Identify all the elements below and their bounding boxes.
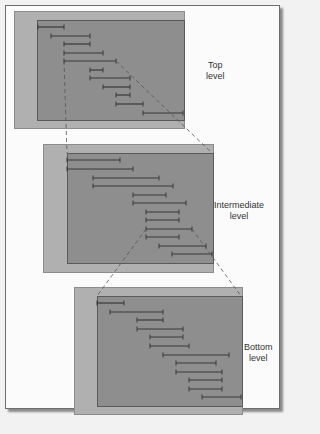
timeline-bar	[172, 252, 212, 257]
timeline-bar	[137, 327, 183, 332]
timeline-bar	[189, 378, 222, 383]
timeline-bar	[150, 335, 183, 340]
dashed-connector-line	[116, 61, 212, 153]
dashed-connector-line	[97, 229, 146, 296]
timeline-bar	[93, 184, 173, 189]
timeline-bar	[133, 193, 166, 198]
timeline-bar	[146, 227, 192, 232]
timeline-bar	[176, 370, 222, 375]
timeline-bar	[90, 76, 130, 81]
bottom-level-label: Bottomlevel	[244, 342, 273, 364]
timeline-bar	[64, 51, 103, 56]
label-line-2: level	[206, 71, 225, 82]
timeline-bar	[146, 210, 179, 215]
timeline-bar	[116, 102, 143, 107]
timeline-bar	[146, 218, 179, 223]
timeline-bar	[133, 201, 186, 206]
timeline-bar	[189, 387, 222, 392]
timeline-bar	[150, 344, 189, 349]
timeline-bar	[64, 42, 90, 47]
timeline-bar	[67, 158, 120, 163]
timeline-bar	[176, 361, 216, 366]
dashed-connector-line	[64, 61, 67, 153]
timeline-bar	[143, 111, 183, 116]
timeline-bar	[103, 85, 130, 90]
timeline-bar	[110, 310, 163, 315]
timeline-bar	[38, 25, 64, 30]
timeline-bar	[51, 34, 90, 39]
label-line-2: level	[214, 211, 264, 222]
label-line-1: Intermediate	[214, 200, 264, 211]
timeline-bar	[97, 301, 124, 306]
dashed-connector-line	[192, 229, 241, 296]
timeline-bar	[159, 244, 206, 249]
timeline-bar	[146, 235, 179, 240]
timeline-bar	[163, 353, 229, 358]
label-line-1: Bottom	[244, 342, 273, 353]
label-line-2: level	[244, 353, 273, 364]
label-line-1: Top	[206, 60, 225, 71]
timeline-bar	[116, 93, 130, 98]
timeline-bar	[90, 68, 103, 73]
timeline-bar	[93, 176, 159, 181]
top-level-label: Toplevel	[206, 60, 225, 82]
intermediate-level-label: Intermediatelevel	[214, 200, 264, 222]
timeline-bar	[137, 318, 163, 323]
timeline-bar	[64, 59, 116, 64]
timeline-bar	[202, 395, 241, 400]
timeline-bar	[67, 167, 133, 172]
